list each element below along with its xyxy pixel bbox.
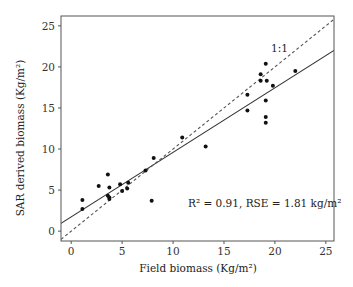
data-point	[264, 62, 268, 66]
data-point	[152, 156, 156, 160]
data-point	[150, 199, 154, 203]
stats-annotation: R² = 0.91, RSE = 1.81 kg/m²	[188, 197, 341, 209]
data-point	[97, 184, 101, 188]
y-tick-label: 10	[42, 143, 55, 155]
x-tick-label: 0	[68, 245, 75, 257]
data-point	[245, 93, 249, 97]
data-point	[204, 145, 208, 149]
data-point	[106, 172, 110, 176]
data-point	[126, 181, 130, 185]
y-tick-label: 15	[42, 102, 55, 114]
data-point	[107, 197, 111, 201]
data-point	[264, 99, 268, 103]
y-tick-label: 20	[42, 61, 55, 73]
data-point	[107, 186, 111, 190]
x-tick-label: 5	[119, 245, 126, 257]
x-axis-title: Field biomass (Kg/m²)	[139, 262, 256, 274]
y-tick-label: 5	[48, 184, 55, 196]
data-point	[245, 108, 249, 112]
data-point	[271, 84, 275, 88]
y-axis: 0510152025	[42, 20, 61, 237]
data-point	[259, 79, 263, 83]
data-point	[125, 186, 129, 190]
data-point	[259, 72, 263, 76]
x-tick-label: 20	[268, 245, 281, 257]
data-point	[80, 198, 84, 202]
y-axis-title: SAR derived biomass (Kg/m²)	[14, 60, 26, 217]
x-axis: 0510152025	[68, 241, 333, 257]
data-point	[265, 79, 269, 83]
x-tick-label: 10	[166, 245, 179, 257]
data-point	[180, 136, 184, 140]
one-to-one-label: 1:1	[271, 42, 288, 54]
y-tick-label: 0	[48, 225, 55, 237]
data-point	[264, 115, 268, 119]
data-point	[120, 189, 124, 193]
data-point	[144, 168, 148, 172]
data-point	[80, 207, 84, 211]
data-point	[293, 69, 297, 73]
data-point	[264, 121, 268, 125]
scatter-chart: 0510152025 0510152025 Field biomass (Kg/…	[0, 0, 353, 287]
x-tick-label: 25	[319, 245, 332, 257]
x-tick-label: 15	[217, 245, 230, 257]
data-point	[118, 182, 122, 186]
y-tick-label: 25	[42, 20, 55, 32]
